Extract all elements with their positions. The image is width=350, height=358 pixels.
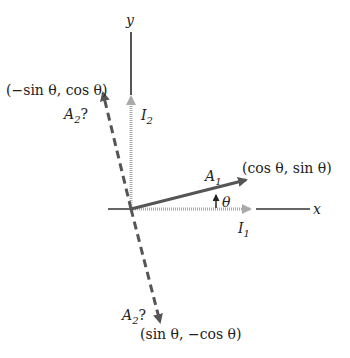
label-theta: θ [222,194,231,210]
coords-A1: (cos θ, sin θ) [242,160,332,176]
coords-A2-up: (−sin θ, cos θ) [6,82,107,98]
label-A2-down: A2? [120,307,146,326]
vector-A2-down [131,209,160,322]
label-A2-up: A2? [62,106,88,125]
label-A1: A1 [203,168,222,187]
x-axis-label: x [313,201,321,217]
coords-A2-down: (sin θ, −cos θ) [140,326,241,342]
label-I1: I1 [237,220,250,239]
label-I2: I2 [140,107,153,126]
y-axis-label: y [125,12,135,28]
vector-A2-up [103,93,131,209]
rotation-diagram: y x I2 I1 A1 (cos θ, sin θ) θ (−sin θ, c… [0,0,350,358]
